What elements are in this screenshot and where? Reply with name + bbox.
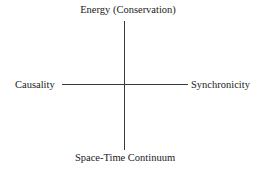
axis-label-bottom: Space-Time Continuum	[0, 152, 250, 164]
vertical-axis-line	[124, 21, 125, 150]
axis-label-right: Synchronicity	[191, 79, 250, 91]
axis-label-top: Energy (Conservation)	[0, 4, 256, 16]
quadrant-diagram: Energy (Conservation) Space-Time Continu…	[0, 0, 261, 170]
axis-label-left: Causality	[15, 79, 55, 91]
horizontal-axis-line	[62, 84, 188, 85]
